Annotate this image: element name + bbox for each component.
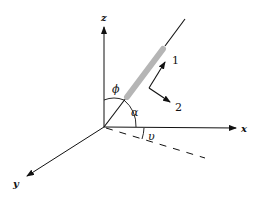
phi-angle-arc [104, 98, 124, 100]
phi-label: ϕ [112, 83, 120, 96]
direction-arrow-2 [149, 88, 170, 102]
alpha-label: α [131, 106, 139, 119]
z-axis-label: z [100, 12, 107, 23]
direction-1-label: 1 [172, 54, 179, 67]
y-axis-label: y [12, 178, 20, 189]
direction-2-label: 2 [175, 101, 182, 114]
fiber-axis-lower [104, 98, 126, 127]
upsilon-angle-arc [142, 128, 144, 139]
fiber-axis-upper [165, 19, 185, 46]
fiber-orientation-diagram: z x y ϕ α υ 1 2 [0, 0, 267, 199]
x-axis-label: x [240, 123, 248, 134]
projection-dashed-line [106, 128, 205, 158]
upsilon-label: υ [148, 130, 155, 143]
y-axis [27, 127, 104, 176]
x-axis [104, 127, 236, 128]
